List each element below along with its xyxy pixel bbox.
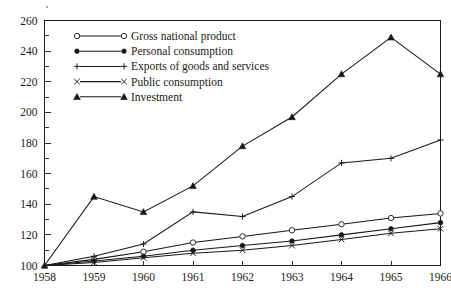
legend-marker-right-icon xyxy=(121,33,126,38)
x-axis-tick-label: 1962 xyxy=(231,271,254,283)
chart-legend: Gross national productPersonal consumpti… xyxy=(74,30,270,103)
x-axis-tick-label: 1966 xyxy=(429,271,451,283)
legend-item-label: Public consumption xyxy=(131,76,223,89)
y-axis-tick-label: 160 xyxy=(20,168,38,180)
data-point-marker xyxy=(140,241,146,247)
legend-item-public-consumption: Public consumption xyxy=(74,76,223,89)
legend-item-personal-consumption: Personal consumption xyxy=(75,45,233,58)
y-axis-tick-label: 120 xyxy=(20,229,38,241)
x-axis-tick-label: 1958 xyxy=(33,271,56,283)
data-point-marker xyxy=(190,209,196,215)
legend-marker-left-icon xyxy=(74,79,80,85)
data-point-marker xyxy=(289,193,295,199)
y-axis-tick-label: 180 xyxy=(20,137,38,149)
legend-item-label: Gross national product xyxy=(131,30,237,43)
legend-marker-left-icon xyxy=(74,33,79,38)
line-chart-plot: 100120140160180200220240260 195819591960… xyxy=(0,0,451,291)
y-axis-tick-label: 140 xyxy=(20,198,38,210)
page-speck xyxy=(46,6,48,8)
data-point-marker xyxy=(339,233,344,238)
legend-item-investment: Investment xyxy=(74,91,183,103)
chart-figure: 100120140160180200220240260 195819591960… xyxy=(0,0,451,291)
legend-item-label: Exports of goods and services xyxy=(131,60,269,73)
x-axis-tick-label: 1961 xyxy=(182,271,205,283)
legend-item-exports-of-goods-and-services: Exports of goods and services xyxy=(74,60,270,73)
series-gross-national-product xyxy=(45,211,444,266)
data-point-marker xyxy=(437,71,444,77)
data-point-marker xyxy=(290,239,295,244)
data-point-marker xyxy=(388,34,395,40)
data-point-marker xyxy=(141,249,146,254)
legend-item-label: Personal consumption xyxy=(131,45,233,58)
data-point-marker xyxy=(438,220,443,225)
legend-marker-left-icon xyxy=(74,94,81,100)
data-point-marker xyxy=(91,193,98,199)
y-axis-tick-label: 240 xyxy=(20,45,38,57)
y-axis-tick-label: 200 xyxy=(20,106,38,118)
data-point-marker xyxy=(437,137,443,143)
data-point-marker xyxy=(339,221,344,226)
legend-marker-right-icon xyxy=(121,63,127,69)
legend-item-gross-national-product: Gross national product xyxy=(74,30,236,43)
x-axis-tick-label: 1965 xyxy=(380,271,403,283)
x-axis-tick-label: 1964 xyxy=(330,271,353,283)
data-point-marker xyxy=(338,160,344,166)
data-point-marker xyxy=(438,211,443,216)
data-point-marker xyxy=(240,234,245,239)
x-axis-tick-label: 1960 xyxy=(132,271,155,283)
legend-marker-left-icon xyxy=(75,49,80,54)
y-axis: 100120140160180200220240260 xyxy=(20,15,50,272)
data-point-marker xyxy=(388,155,394,161)
legend-marker-right-icon xyxy=(122,49,127,54)
legend-item-label: Investment xyxy=(131,91,183,103)
x-axis-tick-label: 1959 xyxy=(83,271,106,283)
data-point-marker xyxy=(239,143,246,149)
data-point-marker xyxy=(388,215,393,220)
legend-marker-right-icon xyxy=(121,79,127,85)
data-point-marker xyxy=(190,240,195,245)
legend-marker-left-icon xyxy=(74,63,80,69)
data-point-marker xyxy=(239,213,245,219)
data-point-marker xyxy=(338,71,345,77)
x-axis-tick-label: 1963 xyxy=(281,271,304,283)
data-point-marker xyxy=(289,228,294,233)
data-point-marker xyxy=(389,226,394,231)
legend-marker-right-icon xyxy=(121,94,128,100)
data-point-marker xyxy=(240,243,245,248)
y-axis-tick-label: 220 xyxy=(20,76,38,88)
y-axis-tick-label: 260 xyxy=(20,15,38,27)
series-personal-consumption xyxy=(45,220,443,265)
